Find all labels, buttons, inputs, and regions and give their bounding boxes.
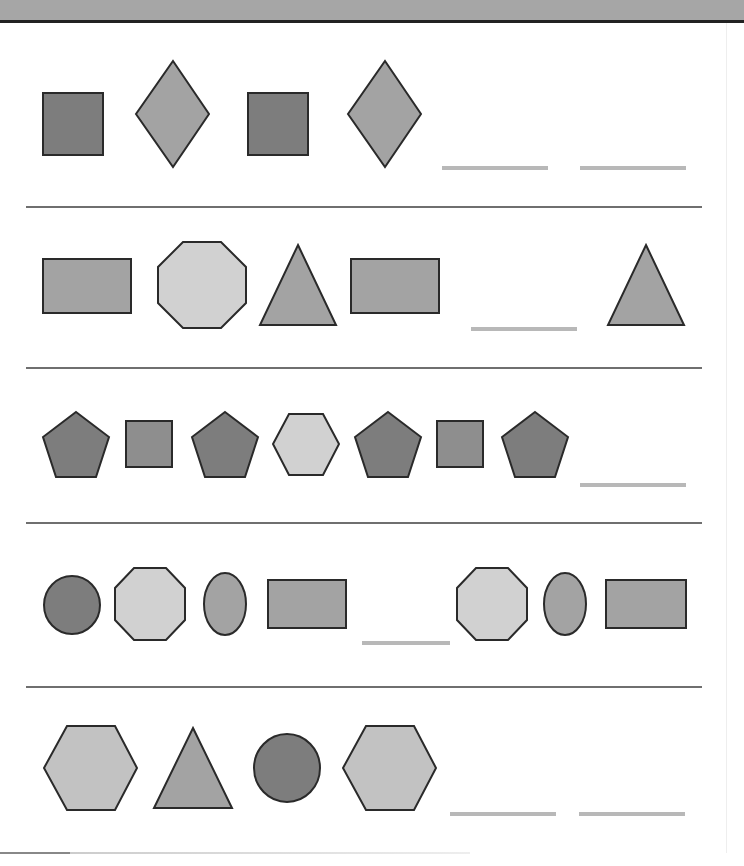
square-shape bbox=[125, 420, 173, 468]
triangle-shape bbox=[259, 244, 337, 326]
row-divider bbox=[26, 522, 702, 524]
worksheet-header bbox=[0, 0, 744, 23]
page-edge bbox=[726, 23, 727, 853]
diamond-shape bbox=[347, 60, 423, 168]
hexagon-shape bbox=[272, 413, 340, 476]
octagon-shape bbox=[114, 567, 186, 641]
answer-blank[interactable] bbox=[450, 812, 556, 816]
answer-blank[interactable] bbox=[580, 166, 686, 170]
dark-square-shape bbox=[42, 92, 104, 156]
rectangle-shape bbox=[605, 579, 687, 629]
oval-shape bbox=[542, 571, 588, 637]
row-divider bbox=[26, 686, 702, 688]
octagon-shape bbox=[456, 567, 528, 641]
answer-blank[interactable] bbox=[442, 166, 548, 170]
answer-blank[interactable] bbox=[471, 327, 577, 331]
oval-shape bbox=[202, 571, 248, 637]
circle-shape bbox=[252, 732, 322, 804]
hexagon-shape bbox=[342, 725, 438, 811]
pentagon-shape bbox=[501, 411, 569, 479]
answer-blank[interactable] bbox=[362, 641, 450, 645]
rectangle-shape bbox=[350, 258, 440, 314]
answer-blank[interactable] bbox=[580, 483, 686, 487]
rectangle-shape bbox=[42, 258, 132, 314]
triangle-shape bbox=[153, 727, 233, 809]
square-shape bbox=[436, 420, 484, 468]
triangle-shape bbox=[607, 244, 685, 326]
circle-shape bbox=[42, 574, 102, 636]
page-bottom-line bbox=[0, 852, 470, 854]
row-divider bbox=[26, 206, 702, 208]
pentagon-shape bbox=[191, 411, 259, 479]
pentagon-shape bbox=[42, 411, 110, 479]
row-divider bbox=[26, 367, 702, 369]
hexagon-shape bbox=[43, 725, 139, 811]
pentagon-shape bbox=[354, 411, 422, 479]
diamond-shape bbox=[135, 60, 211, 168]
dark-square-shape bbox=[247, 92, 309, 156]
octagon-shape bbox=[157, 241, 247, 329]
rectangle-shape bbox=[267, 579, 347, 629]
answer-blank[interactable] bbox=[579, 812, 685, 816]
